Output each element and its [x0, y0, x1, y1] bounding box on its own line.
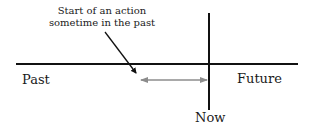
future-label: Future [237, 71, 282, 86]
past-label: Past [22, 72, 50, 87]
annotation-pointer-arrow [105, 32, 136, 73]
now-label: Now [195, 110, 225, 125]
timeline-graphic [0, 0, 312, 131]
timeline-diagram: Start of an action sometime in the past … [0, 0, 312, 131]
annotation-line-1: Start of an action [48, 5, 156, 17]
annotation-line-2: sometime in the past [48, 17, 156, 29]
start-of-action-annotation: Start of an action sometime in the past [48, 5, 156, 29]
